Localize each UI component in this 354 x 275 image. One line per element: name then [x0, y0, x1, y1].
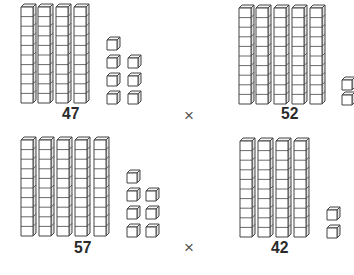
ten-rod	[292, 5, 307, 104]
blocks-42	[240, 138, 340, 238]
unit-cube	[342, 77, 354, 90]
ten-rod	[258, 138, 273, 237]
ten-rod	[38, 4, 53, 103]
ten-rod	[276, 138, 291, 237]
unit-cube	[127, 188, 140, 201]
ten-rod	[256, 5, 271, 104]
ten-rod	[310, 5, 325, 104]
ten-rod	[274, 5, 289, 104]
unit-cube	[146, 188, 159, 201]
ten-rod	[57, 137, 72, 236]
ten-rod	[21, 4, 36, 103]
unit-cube	[128, 73, 141, 86]
ten-rod	[21, 137, 36, 236]
ten-rod	[294, 138, 309, 237]
unit-cube	[127, 206, 140, 219]
unit-cube	[107, 55, 120, 68]
unit-cube	[127, 224, 140, 237]
unit-cube	[342, 92, 354, 105]
blocks-52	[239, 5, 354, 105]
unit-cube	[107, 73, 120, 86]
multiply-sign-bottom: ×	[184, 239, 194, 256]
blocks-57	[21, 137, 159, 237]
unit-cube	[107, 91, 120, 104]
unit-cube	[146, 224, 159, 237]
unit-cube	[327, 225, 340, 238]
unit-cube	[128, 91, 141, 104]
ten-rod	[240, 138, 255, 237]
number-label-42: 42	[271, 238, 288, 258]
ten-rod	[94, 137, 109, 236]
ten-rod	[75, 137, 90, 236]
ten-rod	[39, 137, 54, 236]
unit-cube	[327, 207, 340, 220]
blocks-47	[21, 4, 141, 104]
unit-cube	[128, 55, 141, 68]
unit-cube	[107, 37, 120, 50]
multiply-sign-top: ×	[184, 107, 194, 124]
ten-rod	[239, 5, 254, 104]
number-label-57: 57	[74, 238, 91, 258]
number-label-47: 47	[62, 104, 79, 124]
unit-cube	[127, 170, 140, 183]
ten-rod	[56, 4, 71, 103]
unit-cube	[146, 206, 159, 219]
ten-rod	[74, 4, 89, 103]
number-label-52: 52	[281, 104, 298, 124]
